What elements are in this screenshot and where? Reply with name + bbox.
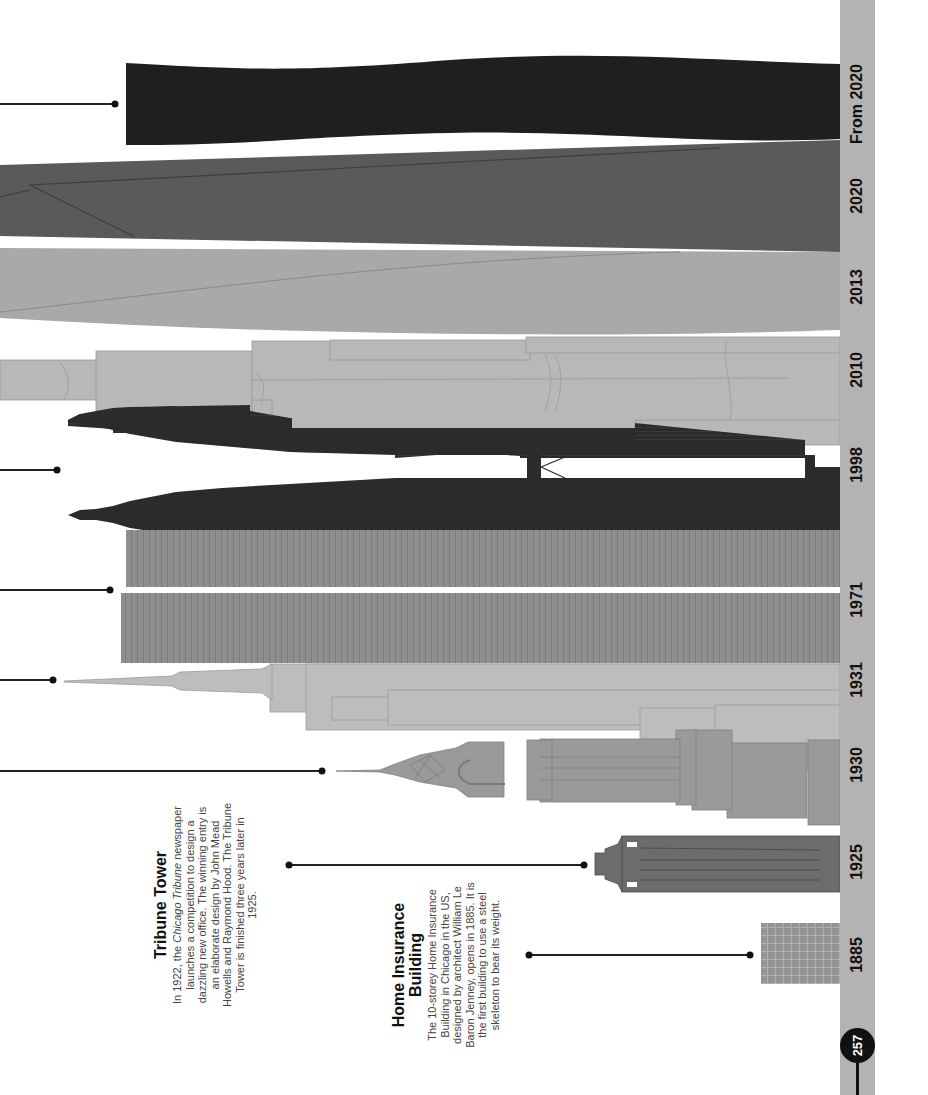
leader-dot-1971 <box>107 587 114 594</box>
leader-line-1998 <box>0 469 57 471</box>
leader-dot-from-2020 <box>112 101 119 108</box>
building-from-2020 <box>126 56 840 145</box>
leader-line-1931 <box>0 679 53 681</box>
caption-body: In 1922, the Chicago Tribune newspaper l… <box>171 803 259 1008</box>
page-number-stem <box>856 1060 859 1095</box>
leader-dot-1885 <box>747 952 754 959</box>
year-label-1998: 1998 <box>848 447 866 483</box>
building-2013 <box>0 248 840 334</box>
year-label-1971: 1971 <box>848 582 866 618</box>
building-1925 <box>595 836 840 892</box>
building-1971 <box>121 530 840 663</box>
leader-line-1925 <box>289 864 584 866</box>
leader-dot-1925-start <box>286 862 293 869</box>
leader-line-1971 <box>0 589 110 591</box>
leader-dot-1930 <box>319 768 326 775</box>
building-2020 <box>0 140 840 252</box>
leader-dot-1885-start <box>526 952 533 959</box>
building-1885 <box>761 923 840 984</box>
year-label-1930: 1930 <box>848 747 866 783</box>
year-label-from-2020: From 2020 <box>848 64 866 144</box>
leader-dot-1998 <box>54 467 61 474</box>
leader-line-from-2020 <box>0 103 115 105</box>
caption-tribune-tower: Tribune Tower In 1922, the Chicago Tribu… <box>152 803 259 1008</box>
year-label-1925: 1925 <box>848 844 866 880</box>
year-label-1931: 1931 <box>848 662 866 698</box>
year-label-2020: 2020 <box>848 178 866 214</box>
caption-home-insurance: Home Insurance Building The 10-storey Ho… <box>390 878 501 1053</box>
year-label-2010: 2010 <box>848 352 866 388</box>
caption-title: Tribune Tower <box>152 803 169 1008</box>
leader-line-1885 <box>529 954 750 956</box>
page-number-badge: 257 <box>840 1028 875 1063</box>
year-label-2013: 2013 <box>848 269 866 305</box>
leader-dot-1925 <box>581 862 588 869</box>
year-label-1885: 1885 <box>848 937 866 973</box>
leader-dot-1931 <box>50 677 57 684</box>
leader-line-1930 <box>0 770 322 772</box>
timeline-ground-strip <box>840 0 875 1095</box>
caption-title: Home Insurance Building <box>390 878 424 1053</box>
caption-body: The 10-storey Home Insurance Building in… <box>426 878 501 1053</box>
building-1930 <box>336 730 840 825</box>
